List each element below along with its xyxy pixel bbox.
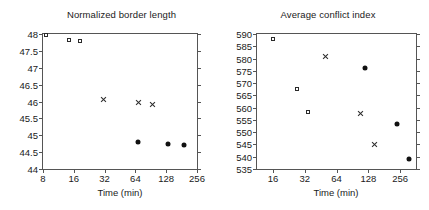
- x-tick-label-right: 256: [392, 173, 408, 184]
- y-tick-right: [253, 144, 257, 145]
- y-tick-label-right: 560: [236, 102, 252, 113]
- y-tick-label-left: 44: [27, 164, 38, 175]
- y-tick-label-right: 550: [236, 127, 252, 138]
- y-tick-label-left: 47.5: [20, 45, 39, 56]
- data-point-open-square: [67, 38, 71, 42]
- chart-panel-normalized-border-length: Normalized border length 4444.54545.5464…: [0, 0, 215, 210]
- y-tick-right-right: [416, 132, 420, 133]
- data-point-cross: [100, 96, 107, 103]
- x-axis-title-right: Time (min): [313, 187, 358, 198]
- x-tick-label-right: 16: [268, 173, 279, 184]
- x-tick-label-right: 128: [360, 173, 376, 184]
- y-tick-label-left: 48: [27, 29, 38, 40]
- y-tick-label-left: 44.5: [20, 147, 39, 158]
- y-tick-label-right: 590: [236, 29, 252, 40]
- y-tick-label-right: 540: [236, 151, 252, 162]
- y-tick-left: [39, 34, 43, 35]
- y-tick-right-left: [197, 51, 201, 52]
- x-tick-label-right: 64: [331, 173, 342, 184]
- data-point-filled-circle: [165, 142, 170, 147]
- y-tick-right-right: [416, 46, 420, 47]
- y-tick-left: [39, 51, 43, 52]
- data-point-cross: [322, 53, 329, 60]
- y-tick-label-right: 580: [236, 53, 252, 64]
- plot-area-left: 4444.54545.54646.54747.5488163264128256: [42, 33, 198, 170]
- y-tick-label-right: 545: [236, 139, 252, 150]
- y-tick-right-left: [197, 85, 201, 86]
- y-tick-left: [39, 102, 43, 103]
- y-tick-right-right: [416, 83, 420, 84]
- y-tick-right-left: [197, 152, 201, 153]
- chart-panel-average-conflict-index: Average conflict index 53554054555055556…: [215, 0, 429, 210]
- y-tick-label-left: 47: [27, 62, 38, 73]
- data-point-open-square: [306, 110, 310, 114]
- y-tick-right: [253, 83, 257, 84]
- y-tick-label-right: 535: [236, 164, 252, 175]
- y-tick-label-left: 46: [27, 96, 38, 107]
- data-point-open-square: [295, 87, 299, 91]
- y-tick-label-right: 575: [236, 65, 252, 76]
- x-tick-label-left: 32: [99, 173, 110, 184]
- y-tick-right-left: [197, 34, 201, 35]
- data-point-filled-circle: [406, 157, 411, 162]
- data-point-open-square: [271, 37, 275, 41]
- y-tick-label-left: 46.5: [20, 79, 39, 90]
- y-tick-left: [39, 85, 43, 86]
- y-tick-label-right: 565: [236, 90, 252, 101]
- y-tick-label-left: 45: [27, 130, 38, 141]
- data-point-cross: [357, 110, 364, 117]
- x-tick-label-left: 16: [69, 173, 80, 184]
- data-point-cross: [371, 141, 378, 148]
- y-tick-left: [39, 118, 43, 119]
- chart-title-left: Normalized border length: [0, 9, 229, 20]
- y-tick-right: [253, 71, 257, 72]
- y-tick-right-right: [416, 120, 420, 121]
- x-tick-label-left: 256: [189, 173, 205, 184]
- x-axis-title-left: Time (min): [97, 187, 142, 198]
- y-tick-right: [253, 120, 257, 121]
- y-tick-right: [253, 157, 257, 158]
- y-tick-right-right: [416, 59, 420, 60]
- y-tick-label-right: 585: [236, 41, 252, 52]
- y-tick-right-right: [416, 34, 420, 35]
- data-point-open-square: [44, 33, 48, 37]
- data-point-filled-circle: [362, 66, 367, 71]
- y-tick-right-left: [197, 68, 201, 69]
- y-tick-right: [253, 46, 257, 47]
- data-point-cross: [135, 99, 142, 106]
- x-tick-label-left: 128: [158, 173, 174, 184]
- y-tick-right-left: [197, 135, 201, 136]
- y-tick-right: [253, 34, 257, 35]
- x-tick-label-left: 64: [130, 173, 141, 184]
- y-tick-right-right: [416, 95, 420, 96]
- data-point-filled-circle: [395, 121, 400, 126]
- y-tick-right-left: [197, 102, 201, 103]
- x-tick-label-right: 32: [299, 173, 310, 184]
- y-tick-right-right: [416, 108, 420, 109]
- y-tick-label-right: 555: [236, 114, 252, 125]
- data-point-filled-circle: [136, 140, 141, 145]
- y-tick-right: [253, 108, 257, 109]
- y-tick-right: [253, 132, 257, 133]
- y-tick-left: [39, 68, 43, 69]
- data-point-cross: [149, 101, 156, 108]
- plot-area-right: 5355405455505555605655705755805855901632…: [256, 33, 417, 170]
- y-tick-right-right: [416, 144, 420, 145]
- y-tick-right: [253, 59, 257, 60]
- y-tick-left: [39, 152, 43, 153]
- y-tick-label-right: 570: [236, 78, 252, 89]
- y-tick-label-left: 45.5: [20, 113, 39, 124]
- x-tick-label-left: 8: [40, 173, 45, 184]
- y-tick-right: [253, 169, 257, 170]
- figure-panels: Normalized border length 4444.54545.5464…: [0, 0, 429, 210]
- chart-title-right: Average conflict index: [215, 9, 429, 20]
- data-point-filled-circle: [181, 143, 186, 148]
- data-point-open-square: [78, 39, 82, 43]
- y-tick-right-right: [416, 169, 420, 170]
- y-tick-right-right: [416, 157, 420, 158]
- y-tick-right-right: [416, 71, 420, 72]
- y-tick-right-left: [197, 118, 201, 119]
- y-tick-left: [39, 135, 43, 136]
- y-tick-right: [253, 95, 257, 96]
